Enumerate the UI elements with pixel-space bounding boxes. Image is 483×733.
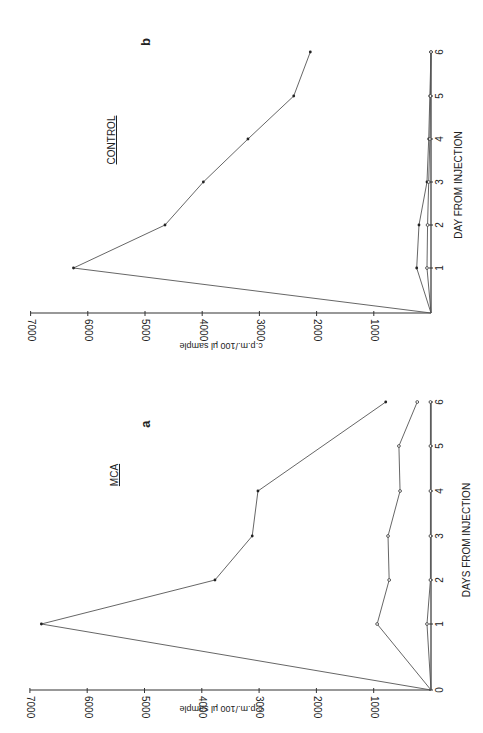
x-tick-label: 3: [434, 533, 445, 539]
data-point: [426, 623, 429, 626]
x-tick-label: 1: [434, 265, 445, 271]
data-point: [428, 138, 431, 141]
data-point: [398, 445, 401, 448]
y-tick-label: 7000: [25, 696, 36, 719]
data-point: [247, 138, 250, 141]
data-point: [292, 95, 295, 98]
data-point: [72, 267, 75, 270]
panel-b-control-chart: 1000200030004000500060007000123456bCONTR…: [26, 38, 464, 351]
panel-letter: a: [138, 420, 153, 428]
data-point: [429, 445, 432, 448]
data-point: [257, 490, 260, 493]
y-tick-label: 5000: [140, 319, 151, 342]
series-line: [377, 402, 431, 690]
y-tick-label: 2000: [312, 696, 323, 719]
data-point: [388, 579, 391, 582]
x-tick-label: 2: [434, 222, 445, 228]
x-axis-label: DAYS FROM INJECTION: [461, 483, 472, 597]
x-tick-label: 6: [434, 399, 445, 405]
x-axis-label: DAY FROM INJECTION: [453, 131, 464, 238]
y-tick-label: 3000: [255, 319, 266, 342]
y-axis-label: c.p.m./100 µl sample: [179, 341, 262, 351]
y-axis-label: c.p.m./100 µl sample: [179, 704, 262, 714]
data-point: [415, 267, 418, 270]
data-point: [309, 51, 312, 54]
data-point: [202, 181, 205, 184]
x-tick-label: 1: [434, 621, 445, 627]
panel-a-mca-chart: 10002000300040005000600070000123456aMCAD…: [25, 399, 472, 719]
figure: 1000200030004000500060007000123456bCONTR…: [0, 0, 483, 733]
y-tick-label: 4000: [198, 319, 209, 342]
data-point: [376, 623, 379, 626]
data-point: [429, 535, 432, 538]
data-point: [384, 401, 387, 404]
x-tick-label: 4: [434, 488, 445, 494]
x-tick-label: 3: [434, 179, 445, 185]
data-point: [399, 490, 402, 493]
y-tick-label: 1000: [369, 319, 380, 342]
data-point: [430, 51, 433, 54]
x-tick-label: 2: [434, 577, 445, 583]
x-tick-label: 5: [434, 443, 445, 449]
data-point: [387, 535, 390, 538]
x-tick-label: 4: [434, 136, 445, 142]
y-tick-label: 7000: [26, 319, 37, 342]
data-point: [429, 490, 432, 493]
data-point: [164, 224, 167, 227]
data-point: [418, 224, 421, 227]
data-point: [429, 401, 432, 404]
data-point: [429, 95, 432, 98]
data-point: [429, 579, 432, 582]
panel-title: CONTROL: [106, 115, 117, 164]
y-tick-label: 5000: [140, 696, 151, 719]
data-point: [426, 224, 429, 227]
series-line: [74, 52, 432, 313]
x-tick-label: 6: [434, 49, 445, 55]
data-point: [416, 401, 419, 404]
data-point: [426, 267, 429, 270]
series-line: [41, 402, 431, 690]
y-tick-label: 2000: [312, 319, 323, 342]
panel-letter: b: [138, 38, 153, 46]
data-point: [427, 181, 430, 184]
y-tick-label: 6000: [83, 319, 94, 342]
data-point: [40, 623, 43, 626]
y-tick-label: 1000: [369, 696, 380, 719]
x-tick-label: 5: [434, 93, 445, 99]
panel-title: MCA: [109, 464, 120, 487]
x-tick-label: 0: [434, 687, 445, 693]
data-point: [214, 579, 217, 582]
y-tick-label: 6000: [83, 696, 94, 719]
data-point: [251, 535, 254, 538]
